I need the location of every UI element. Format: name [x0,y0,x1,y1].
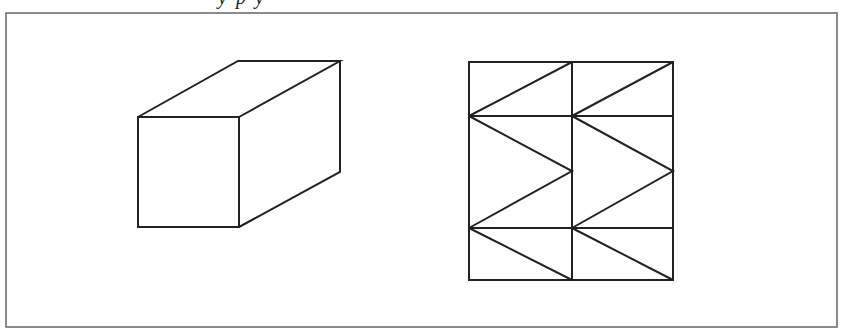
diagonal-top-left [469,62,572,116]
prism-top-face [138,61,340,117]
prism-front-face [138,117,239,227]
prism-side-face [239,61,340,227]
diagram-canvas [0,0,843,335]
diagonal-bottom-right [572,228,673,280]
figure-frame [6,13,837,327]
diagonal-top-right [572,62,673,116]
diagonal-bottom-left [469,228,572,280]
rectangular-prism [138,61,340,227]
zigzag-middle-right [572,116,673,228]
zigzag-middle-left [469,116,572,228]
prism-net-grid [469,62,673,280]
